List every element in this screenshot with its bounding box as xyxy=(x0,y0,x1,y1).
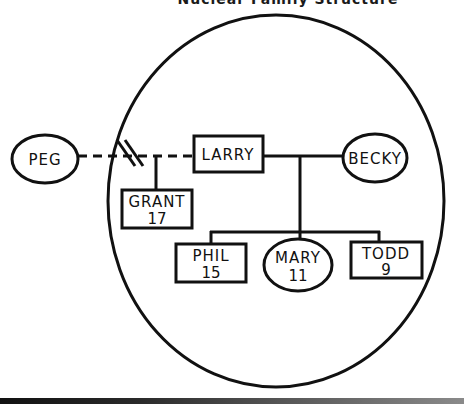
person-name: GRANT xyxy=(128,193,185,211)
person-node-grant: GRANT 17 xyxy=(122,190,192,228)
person-age: 15 xyxy=(201,264,220,282)
genogram-canvas: PEG LARRY BECKY GRANT 17 PHIL 15 MARY xyxy=(0,0,464,404)
person-age: 17 xyxy=(147,210,166,228)
person-node-mary: MARY 11 xyxy=(264,239,332,291)
person-node-todd: TODD 9 xyxy=(351,242,422,279)
person-node-phil: PHIL 15 xyxy=(176,244,246,282)
person-age: 11 xyxy=(288,267,307,285)
person-node-becky: BECKY xyxy=(343,134,407,182)
person-name: LARRY xyxy=(201,146,254,164)
person-name: PEG xyxy=(28,151,61,169)
divorce-marker-icon xyxy=(117,140,143,166)
page-edge-shadow xyxy=(0,398,464,404)
genogram-diagram: Nuclear Family Structure PEG LAR xyxy=(0,0,464,404)
person-age: 9 xyxy=(381,261,391,279)
person-name: PHIL xyxy=(192,247,229,265)
person-node-peg: PEG xyxy=(12,135,78,183)
person-node-larry: LARRY xyxy=(194,136,263,172)
person-name: MARY xyxy=(275,249,321,267)
person-name: BECKY xyxy=(348,150,402,168)
diagram-title: Nuclear Family Structure xyxy=(56,0,464,7)
